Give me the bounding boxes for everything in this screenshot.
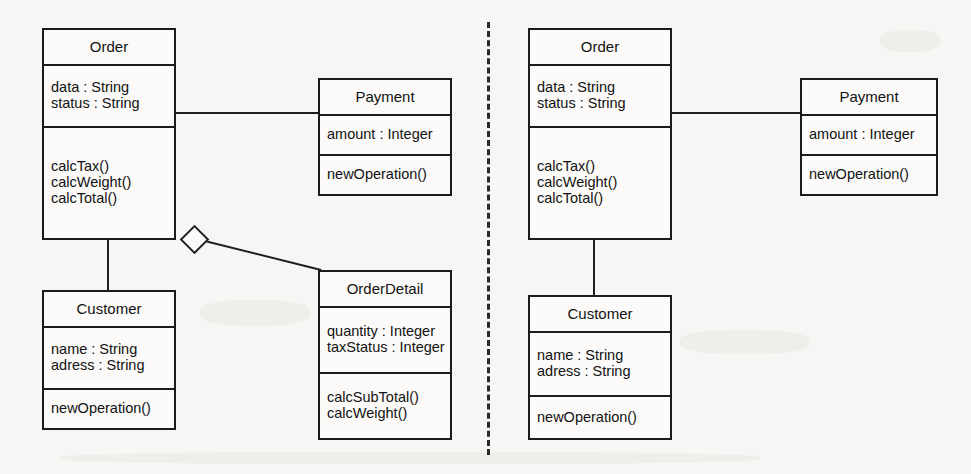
class-name-section: Order (44, 30, 174, 64)
class-attributes-section: data : String status : String (530, 64, 670, 126)
class-operation: calcSubTotal() (320, 390, 450, 406)
class-attribute: status : String (530, 96, 670, 112)
class-attributes-section: data : String status : String (44, 64, 174, 126)
class-attribute: adress : String (44, 358, 174, 374)
uml-class-order[interactable]: Order data : String status : String calc… (528, 28, 672, 240)
class-name: Payment (320, 89, 450, 105)
class-operation: calcTotal() (44, 191, 174, 207)
class-attribute: data : String (44, 80, 174, 96)
class-operation: calcWeight() (44, 175, 174, 191)
scan-artifact (880, 30, 940, 52)
panel-separator (487, 22, 490, 455)
class-name-section: Customer (530, 297, 670, 331)
class-operations-section: calcSubTotal() calcWeight() (320, 372, 450, 438)
class-operations-section: newOperation() (530, 395, 670, 438)
scan-artifact (200, 300, 310, 326)
class-name-section: Payment (320, 80, 450, 114)
class-attributes-section: amount : Integer (802, 114, 936, 154)
class-attribute: status : String (44, 96, 174, 112)
class-operation: calcTotal() (530, 191, 670, 207)
uml-class-payment[interactable]: Payment amount : Integer newOperation() (318, 78, 452, 196)
class-name-section: OrderDetail (320, 272, 450, 306)
connector-order-payment (672, 112, 802, 114)
class-attribute: taxStatus : Integer (320, 340, 450, 356)
class-operation: newOperation() (802, 167, 936, 183)
class-name-section: Payment (802, 80, 936, 114)
class-attribute: quantity : Integer (320, 324, 450, 340)
class-operation: calcWeight() (530, 175, 670, 191)
class-name: Order (44, 39, 174, 55)
class-name: OrderDetail (320, 281, 450, 297)
class-name: Customer (44, 301, 174, 317)
class-operation: newOperation() (320, 167, 450, 183)
class-operation: calcTax() (44, 159, 174, 175)
class-name-section: Order (530, 30, 670, 64)
uml-class-payment[interactable]: Payment amount : Integer newOperation() (800, 78, 938, 196)
class-name: Customer (530, 306, 670, 322)
class-operation: calcWeight() (320, 406, 450, 422)
class-attribute: name : String (530, 348, 670, 364)
class-attributes-section: quantity : Integer taxStatus : Integer (320, 306, 450, 372)
class-operation: calcTax() (530, 159, 670, 175)
connector-order-payment (176, 112, 320, 114)
uml-class-customer[interactable]: Customer name : String adress : String n… (42, 290, 176, 430)
class-operations-section: calcTax() calcWeight() calcTotal() (44, 126, 174, 238)
class-operations-section: calcTax() calcWeight() calcTotal() (530, 126, 670, 238)
class-name-section: Customer (44, 292, 174, 326)
class-operation: newOperation() (44, 401, 174, 417)
scan-artifact (680, 330, 810, 354)
uml-class-customer[interactable]: Customer name : String adress : String n… (528, 295, 672, 440)
uml-class-order[interactable]: Order data : String status : String calc… (42, 28, 176, 240)
class-attributes-section: name : String adress : String (530, 331, 670, 395)
class-name: Payment (802, 89, 936, 105)
uml-class-orderdetail[interactable]: OrderDetail quantity : Integer taxStatus… (318, 270, 452, 440)
connector-order-orderdetail (205, 240, 322, 271)
class-name: Order (530, 39, 670, 55)
scan-artifact (60, 452, 760, 464)
class-attributes-section: amount : Integer (320, 114, 450, 154)
uml-diagram-canvas: Order data : String status : String calc… (0, 0, 971, 474)
class-attribute: amount : Integer (802, 127, 936, 143)
aggregation-diamond (180, 225, 210, 255)
class-operations-section: newOperation() (802, 154, 936, 194)
class-operations-section: newOperation() (44, 388, 174, 428)
connector-order-customer (107, 240, 109, 291)
class-attribute: name : String (44, 342, 174, 358)
class-attribute: data : String (530, 80, 670, 96)
class-attributes-section: name : String adress : String (44, 326, 174, 388)
class-attribute: amount : Integer (320, 127, 450, 143)
class-operation: newOperation() (530, 410, 670, 426)
class-attribute: adress : String (530, 364, 670, 380)
class-operations-section: newOperation() (320, 154, 450, 194)
connector-order-customer (593, 240, 595, 296)
